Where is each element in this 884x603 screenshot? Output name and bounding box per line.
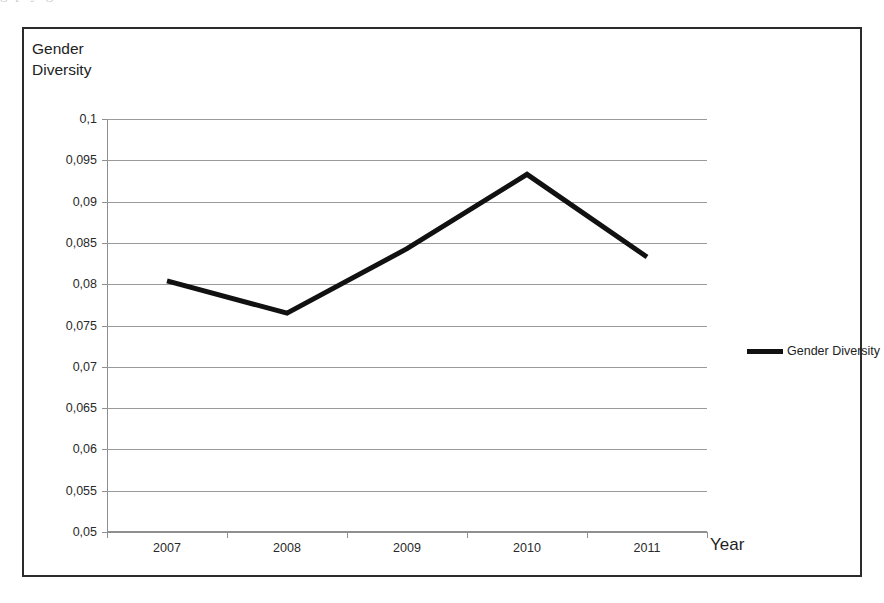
scan-fragment-text: g p y g bbox=[0, 0, 55, 2]
x-axis-tick bbox=[227, 532, 228, 538]
chart-title: Gender Diversity bbox=[32, 38, 152, 80]
x-axis-tick bbox=[707, 532, 708, 538]
legend-label: Gender Diversity bbox=[787, 344, 880, 358]
plot-area: 0,050,0550,060,0650,070,0750,080,0850,09… bbox=[107, 119, 707, 532]
x-axis-tick-label: 2009 bbox=[393, 541, 421, 555]
x-axis-tick-label: 2011 bbox=[634, 541, 661, 555]
series-path bbox=[167, 174, 647, 313]
y-axis-tick-label: 0,07 bbox=[73, 360, 97, 374]
chart-legend: Gender Diversity bbox=[747, 344, 880, 358]
x-axis-tick-label: 2010 bbox=[513, 541, 541, 555]
x-axis-tick-label: 2007 bbox=[153, 541, 181, 555]
chart-frame: Gender Diversity 0,050,0550,060,0650,070… bbox=[22, 27, 862, 577]
y-axis-tick-label: 0,1 bbox=[80, 112, 97, 126]
x-axis-tick bbox=[467, 532, 468, 538]
x-axis-tick bbox=[347, 532, 348, 538]
y-axis-tick-label: 0,095 bbox=[66, 153, 97, 167]
x-axis-tick bbox=[587, 532, 588, 538]
legend-line-swatch bbox=[747, 349, 783, 354]
y-axis-tick-label: 0,06 bbox=[73, 442, 97, 456]
x-axis-title: Year bbox=[710, 535, 744, 555]
gridline bbox=[107, 532, 707, 533]
y-axis-tick-label: 0,05 bbox=[73, 525, 97, 539]
y-axis-tick-label: 0,085 bbox=[66, 236, 97, 250]
series-line-gender-diversity bbox=[107, 119, 707, 532]
y-axis-tick-label: 0,055 bbox=[66, 484, 97, 498]
y-axis-tick-label: 0,075 bbox=[66, 319, 97, 333]
x-axis-tick bbox=[107, 532, 108, 538]
y-axis-tick-label: 0,065 bbox=[66, 401, 97, 415]
y-axis-tick-label: 0,09 bbox=[73, 195, 97, 209]
scanned-page-top-fragment: g p y g bbox=[0, 0, 884, 10]
y-axis-tick-label: 0,08 bbox=[73, 277, 97, 291]
x-axis-tick-label: 2008 bbox=[273, 541, 301, 555]
